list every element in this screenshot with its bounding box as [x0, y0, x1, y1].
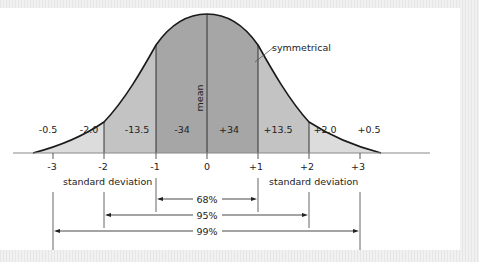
- band-label: +0.5: [357, 124, 380, 135]
- band-label: +34: [219, 124, 239, 135]
- symmetry-label: symmetrical: [272, 42, 331, 53]
- band-label: -0.5: [39, 124, 58, 135]
- normal-distribution-diagram: -3 -2 -1 0 +1 +2 +3 -0.5 -2.0 -13.5 -34 …: [0, 0, 479, 262]
- arrow-left-icon: [157, 197, 163, 201]
- arrow-left-icon: [54, 229, 60, 233]
- range-68: 68%: [157, 194, 257, 205]
- arrow-left-icon: [105, 213, 111, 217]
- tick-label: -2: [98, 161, 107, 172]
- tick-labels: -3 -2 -1 0 +1 +2 +3: [47, 161, 365, 172]
- arrow-right-icon: [302, 213, 308, 217]
- arrow-right-icon: [353, 229, 359, 233]
- band-label: -2.0: [80, 124, 99, 135]
- range-label: 68%: [196, 194, 217, 205]
- tick-label: +1: [249, 161, 263, 172]
- tick-label: +2: [300, 161, 314, 172]
- sd-label-right: standard deviation: [269, 176, 358, 187]
- band-label: -13.5: [125, 124, 150, 135]
- tick-label: +3: [351, 161, 365, 172]
- band-label: +2.0: [313, 124, 336, 135]
- range-label: 99%: [196, 226, 217, 237]
- mean-label: mean: [194, 85, 205, 112]
- tick-label: -3: [47, 161, 56, 172]
- arrow-right-icon: [251, 197, 257, 201]
- band-label: +13.5: [263, 124, 292, 135]
- tick-label: -1: [150, 161, 159, 172]
- tick-label: 0: [204, 161, 210, 172]
- axis-ticks: [53, 153, 360, 159]
- sd-label-left: standard deviation: [63, 176, 152, 187]
- range-99: 99%: [54, 226, 359, 237]
- range-label: 95%: [196, 210, 217, 221]
- range-95: 95%: [105, 210, 308, 221]
- band-label: -34: [174, 124, 190, 135]
